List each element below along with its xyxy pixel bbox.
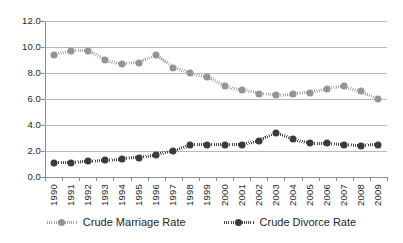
data-point-marker (50, 159, 57, 166)
y-axis-tick-label: 12.0 (3, 16, 41, 26)
x-axis-tick-label: 2005 (305, 184, 315, 206)
gridline (45, 99, 387, 100)
data-point-marker (255, 137, 262, 144)
data-point-marker (84, 158, 91, 165)
data-point-marker (187, 141, 194, 148)
x-axis-tick-mark (62, 177, 63, 181)
data-point-marker (67, 47, 74, 54)
data-point-marker (341, 83, 348, 90)
x-axis-tick-label: 1990 (49, 184, 59, 206)
x-axis-tick-mark (45, 177, 46, 181)
x-axis-tick-label: 1998 (185, 184, 195, 206)
gridline (45, 125, 387, 126)
x-axis-tick-mark (267, 177, 268, 181)
x-axis-tick-mark (370, 177, 371, 181)
x-axis-tick-mark (302, 177, 303, 181)
x-axis-tick-mark (148, 177, 149, 181)
data-point-marker (221, 83, 228, 90)
data-point-marker (136, 59, 143, 66)
x-axis-tick-label: 1999 (202, 184, 212, 206)
data-point-marker (170, 64, 177, 71)
y-axis-tick-mark (41, 99, 45, 100)
y-axis-tick-mark (41, 125, 45, 126)
data-point-marker (67, 159, 74, 166)
data-point-marker (153, 51, 160, 58)
legend-label-divorce: Crude Divorce Rate (260, 217, 357, 228)
y-axis-tick-mark (41, 73, 45, 74)
data-point-marker (136, 154, 143, 161)
x-axis-tick-mark (165, 177, 166, 181)
data-point-marker (221, 141, 228, 148)
y-axis-tick-label: 2.0 (3, 146, 41, 156)
data-point-marker (153, 151, 160, 158)
x-axis-tick-mark (79, 177, 80, 181)
data-point-marker (341, 141, 348, 148)
x-axis-tick-mark (96, 177, 97, 181)
x-axis-tick-label: 2008 (356, 184, 366, 206)
legend-swatch-divorce-icon (224, 218, 254, 227)
legend-swatch-marriage-icon (47, 218, 77, 227)
x-axis-tick-label: 2009 (373, 184, 383, 206)
gridline (45, 47, 387, 48)
x-axis-tick-mark (284, 177, 285, 181)
data-point-marker (101, 57, 108, 64)
legend-item-crude-divorce-rate[interactable]: Crude Divorce Rate (224, 217, 357, 228)
x-axis-tick-label: 1992 (83, 184, 93, 206)
y-axis-tick-label: 0.0 (3, 172, 41, 182)
x-axis-tick-label: 2000 (220, 184, 230, 206)
data-point-marker (375, 96, 382, 103)
data-point-marker (272, 129, 279, 136)
legend-label-marriage: Crude Marriage Rate (83, 217, 186, 228)
data-point-marker (272, 92, 279, 99)
data-point-marker (204, 73, 211, 80)
y-axis-tick-label: 4.0 (3, 120, 41, 130)
x-axis-tick-label: 1995 (134, 184, 144, 206)
data-point-marker (307, 89, 314, 96)
gridline (45, 73, 387, 74)
x-axis-tick-mark (216, 177, 217, 181)
y-axis-labels: 12.010.08.06.04.02.00.0 (0, 0, 41, 243)
data-point-marker (324, 85, 331, 92)
data-point-marker (84, 47, 91, 54)
y-axis-tick-mark (41, 177, 45, 178)
data-point-marker (118, 60, 125, 67)
y-axis-tick-mark (41, 151, 45, 152)
data-point-marker (238, 86, 245, 93)
data-point-marker (358, 88, 365, 95)
x-axis-tick-label: 1996 (151, 184, 161, 206)
x-axis-tick-label: 1997 (168, 184, 178, 206)
data-point-marker (238, 141, 245, 148)
x-axis-tick-mark (319, 177, 320, 181)
x-axis-tick-label: 2004 (288, 184, 298, 206)
x-axis-tick-label: 2001 (237, 184, 247, 206)
x-axis-tick-mark (113, 177, 114, 181)
data-point-marker (187, 70, 194, 77)
x-axis-tick-mark (250, 177, 251, 181)
data-point-marker (170, 148, 177, 155)
data-point-marker (101, 157, 108, 164)
gridline (45, 21, 387, 22)
data-point-marker (358, 142, 365, 149)
gridline (45, 151, 387, 152)
x-axis-tick-label: 2003 (271, 184, 281, 206)
y-axis-tick-label: 6.0 (3, 94, 41, 104)
x-axis-tick-mark (387, 177, 388, 181)
data-point-marker (50, 51, 57, 58)
x-axis-tick-mark (199, 177, 200, 181)
data-point-marker (255, 90, 262, 97)
y-axis-tick-mark (41, 21, 45, 22)
legend-item-crude-marriage-rate[interactable]: Crude Marriage Rate (47, 217, 186, 228)
x-axis-tick-label: 2006 (322, 184, 332, 206)
y-axis-tick-label: 10.0 (3, 42, 41, 52)
plot-area (45, 21, 387, 177)
x-axis-tick-mark (182, 177, 183, 181)
y-axis-tick-mark (41, 47, 45, 48)
x-axis-tick-label: 2007 (339, 184, 349, 206)
data-point-marker (375, 141, 382, 148)
x-axis-tick-label: 2002 (254, 184, 264, 206)
x-axis-tick-label: 1993 (100, 184, 110, 206)
x-axis-tick-label: 1991 (66, 184, 76, 206)
data-point-marker (289, 136, 296, 143)
data-point-marker (324, 140, 331, 147)
x-axis-tick-mark (336, 177, 337, 181)
